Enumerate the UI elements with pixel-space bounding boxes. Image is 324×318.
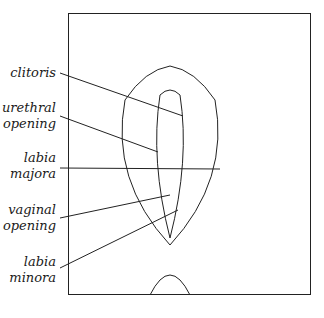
leader-vaginal-opening	[60, 195, 170, 218]
base-curve	[150, 275, 190, 295]
label-labia-majora: labia majora	[10, 150, 56, 182]
label-urethral-opening: urethral opening	[2, 100, 56, 132]
anatomy-diagram: clitoris urethral opening labia majora v…	[0, 0, 324, 318]
outer-outline	[122, 66, 218, 245]
leader-labia-minora	[60, 210, 178, 268]
label-labia-minora: labia minora	[9, 254, 56, 286]
leader-clitoris	[60, 73, 183, 116]
leader-urethral-opening	[60, 116, 158, 152]
leader-labia-majora	[60, 168, 220, 169]
label-clitoris: clitoris	[10, 65, 56, 81]
inner-outline	[157, 90, 184, 238]
label-vaginal-opening: vaginal opening	[3, 202, 56, 234]
